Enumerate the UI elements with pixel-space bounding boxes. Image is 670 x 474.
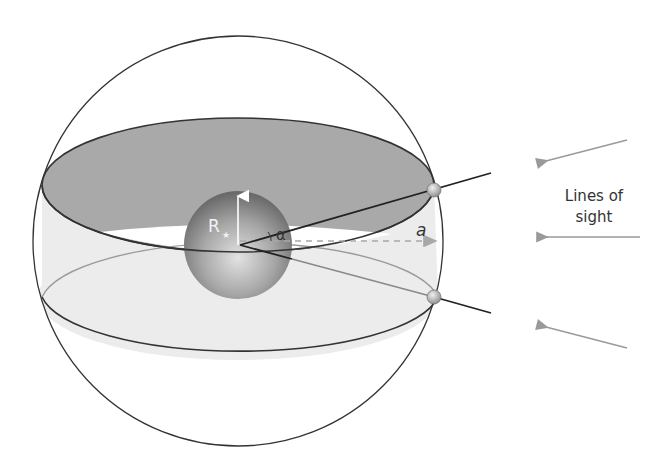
transit-geometry-diagram: R ★ α a Lines of sight [0,0,670,474]
line-of-sight-arrow-top [546,140,627,161]
angle-label: α [276,226,286,244]
star-radius-label: R [208,216,220,236]
sight-line-lower-outer [434,297,491,313]
lines-of-sight-label-line1: Lines of [565,187,624,205]
line-of-sight-arrow-bottom [546,327,627,348]
planet-upper-icon [427,183,441,197]
semi-major-axis-label: a [416,220,426,240]
lines-of-sight-label-line2: sight [576,208,613,226]
star-radius-subscript: ★ [222,230,230,240]
planet-lower-icon [427,290,441,304]
